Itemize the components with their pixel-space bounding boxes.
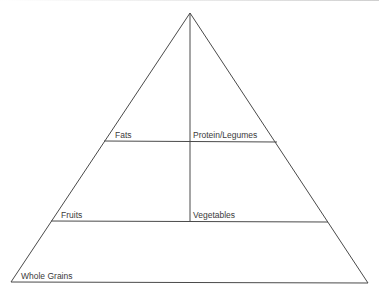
label-protein-legumes: Protein/Legumes [193, 131, 257, 140]
pyramid-base-line [11, 282, 368, 283]
label-vegetables: Vegetables [193, 211, 235, 220]
pyramid-left-edge [11, 13, 190, 282]
food-pyramid-diagram [0, 0, 379, 296]
label-fruits: Fruits [61, 211, 82, 220]
label-fats: Fats [115, 131, 132, 140]
label-whole-grains: Whole Grains [21, 272, 73, 281]
middle-tier-divider [51, 221, 328, 222]
pyramid-right-edge [190, 13, 368, 283]
